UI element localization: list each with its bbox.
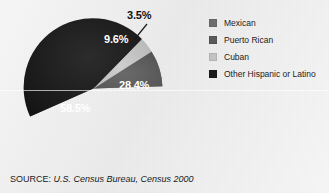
callout-leader-line bbox=[134, 24, 147, 40]
legend-item-puerto-rican[interactable]: Puerto Rican bbox=[209, 32, 327, 47]
legend-swatch-icon-mexican bbox=[209, 19, 217, 27]
legend-label-puerto-rican: Puerto Rican bbox=[224, 35, 273, 45]
pie-slice-label-mexican: 58.5% bbox=[60, 102, 91, 114]
legend-label-mexican: Mexican bbox=[224, 18, 256, 28]
legend-item-cuban[interactable]: Cuban bbox=[209, 49, 327, 64]
legend-label-other-hispanic-or-latino: Other Hispanic or Latino bbox=[224, 69, 316, 79]
pie-slice-callout-cuban: 3.5% bbox=[127, 9, 189, 43]
pie-chart-figure: 58.5% 9.6% 28.4% 3.5% Mexican Puerto Ric… bbox=[0, 0, 329, 193]
pie-slice-label-puerto-rican: 9.6% bbox=[104, 33, 129, 45]
source-note: SOURCE: U.S. Census Bureau, Census 2000 bbox=[10, 174, 194, 184]
legend-swatch-icon-cuban bbox=[209, 53, 217, 61]
legend-item-other-hispanic-or-latino[interactable]: Other Hispanic or Latino bbox=[209, 66, 327, 81]
legend-swatch-icon-puerto-rican bbox=[209, 36, 217, 44]
source-label: SOURCE: bbox=[10, 174, 51, 184]
pie-slice-label-other-hispanic-or-latino: 28.4% bbox=[119, 79, 150, 91]
callout-leader-line-svg bbox=[127, 9, 189, 43]
legend-label-cuban: Cuban bbox=[224, 52, 249, 62]
source-citation: U.S. Census Bureau, Census 2000 bbox=[51, 174, 194, 184]
chart-legend: Mexican Puerto Rican Cuban Other Hispani… bbox=[209, 15, 327, 83]
legend-swatch-icon-other-hispanic-or-latino bbox=[209, 70, 217, 78]
legend-item-mexican[interactable]: Mexican bbox=[209, 15, 327, 30]
